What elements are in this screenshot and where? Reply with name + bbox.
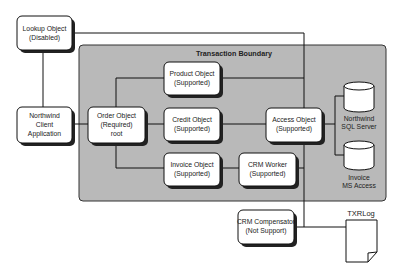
svg-text:root: root: [111, 130, 123, 137]
northwind-client-node[interactable]: Northwind Client Application: [17, 107, 75, 146]
svg-text:(Supported): (Supported): [174, 125, 210, 133]
svg-text:Invoice: Invoice: [348, 174, 370, 181]
boundary-title: Transaction Boundary: [196, 49, 272, 58]
svg-text:(Supported): (Supported): [250, 170, 286, 178]
svg-text:MS Access: MS Access: [342, 182, 376, 189]
crm-compensator-node[interactable]: CRM Compensator (Not Support): [237, 210, 297, 247]
svg-text:(Not Support): (Not Support): [246, 227, 287, 235]
svg-text:CRM Worker: CRM Worker: [248, 161, 288, 168]
product-object-node[interactable]: Product Object (Supported): [164, 62, 223, 98]
svg-text:Invoice Object: Invoice Object: [170, 161, 213, 169]
svg-text:(Supported): (Supported): [174, 79, 210, 87]
access-object-node[interactable]: Access Object (Supported): [266, 108, 325, 145]
svg-text:Credit Object: Credit Object: [172, 116, 212, 124]
svg-text:(Supported): (Supported): [174, 170, 210, 178]
svg-text:SQL Server: SQL Server: [341, 123, 377, 131]
svg-text:Application: Application: [28, 130, 61, 138]
svg-text:Order Object: Order Object: [97, 112, 136, 120]
svg-text:CRM Compensator: CRM Compensator: [237, 218, 296, 226]
svg-text:(Supported): (Supported): [276, 125, 312, 133]
invoice-ms-access-database-icon: Invoice MS Access: [342, 141, 376, 189]
credit-object-node[interactable]: Credit Object (Supported): [164, 108, 223, 144]
txrlog-document-icon: TXRLog: [346, 209, 377, 262]
svg-text:(Required): (Required): [100, 121, 132, 129]
svg-text:Product Object: Product Object: [170, 70, 215, 78]
northwind-sql-database-icon: Northwind SQL Server: [341, 82, 377, 131]
order-object-node[interactable]: Order Object (Required) root: [88, 107, 148, 146]
svg-text:Client: Client: [36, 121, 53, 128]
lookup-object-node[interactable]: Lookup Object (Disabled): [17, 16, 75, 53]
svg-text:Northwind: Northwind: [344, 115, 375, 122]
svg-text:TXRLog: TXRLog: [347, 209, 375, 218]
svg-text:Access Object: Access Object: [272, 116, 316, 124]
svg-text:Northwind: Northwind: [29, 112, 60, 119]
crm-worker-node[interactable]: CRM Worker (Supported): [239, 153, 299, 189]
svg-text:Lookup Object: Lookup Object: [23, 25, 67, 33]
invoice-object-node[interactable]: Invoice Object (Supported): [164, 153, 223, 189]
svg-text:(Disabled): (Disabled): [29, 34, 60, 42]
transaction-diagram: Transaction Boundary Lookup Obj: [0, 0, 401, 273]
